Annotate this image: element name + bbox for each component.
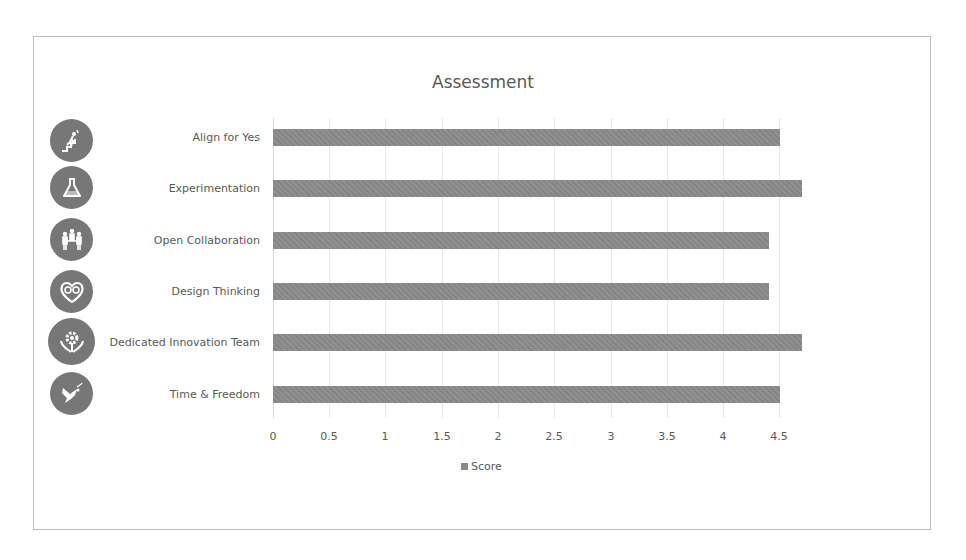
- x-tick: 1: [382, 430, 389, 443]
- gridline-2: [498, 118, 499, 418]
- gridline-1: [385, 118, 386, 418]
- x-tick: 3.5: [658, 430, 676, 443]
- person-climbing-stairs-icon: [50, 119, 93, 162]
- gridline-0-5: [329, 118, 330, 418]
- dove-icon: [50, 372, 93, 415]
- chart-legend: Score: [461, 460, 502, 473]
- category-label: Open Collaboration: [154, 234, 260, 247]
- category-label: Time & Freedom: [170, 388, 260, 401]
- gridline-3: [611, 118, 612, 418]
- category-label: Align for Yes: [193, 131, 260, 144]
- x-tick: 4.5: [770, 430, 788, 443]
- gridline-2-5: [554, 118, 555, 418]
- x-tick: 3: [608, 430, 615, 443]
- x-tick: 2: [495, 430, 502, 443]
- hands-gear-icon: [48, 318, 95, 365]
- bar-design-thinking: [273, 283, 769, 300]
- gridline-1-5: [442, 118, 443, 418]
- gridline-3-5: [667, 118, 668, 418]
- gridline-4: [723, 118, 724, 418]
- flask-icon: [50, 166, 93, 209]
- legend-swatch: [461, 463, 468, 470]
- x-tick: 0.5: [320, 430, 338, 443]
- people-group-icon: [50, 218, 93, 261]
- x-tick: 2.5: [545, 430, 563, 443]
- bar-time-and-freedom: [273, 386, 780, 403]
- x-tick: 4: [720, 430, 727, 443]
- legend-label: Score: [471, 460, 502, 473]
- bar-dedicated-innovation-team: [273, 334, 802, 351]
- chart-title: Assessment: [0, 72, 966, 92]
- category-label: Experimentation: [169, 182, 260, 195]
- category-label: Design Thinking: [171, 285, 260, 298]
- bar-experimentation: [273, 180, 802, 197]
- x-tick: 1.5: [433, 430, 451, 443]
- bar-open-collaboration: [273, 232, 769, 249]
- heart-spiral-icon: [50, 270, 93, 313]
- gridline-0: [273, 118, 274, 418]
- x-tick: 0: [270, 430, 277, 443]
- category-label: Dedicated Innovation Team: [110, 336, 260, 349]
- bar-align-for-yes: [273, 129, 780, 146]
- gridline-4-5: [779, 118, 780, 418]
